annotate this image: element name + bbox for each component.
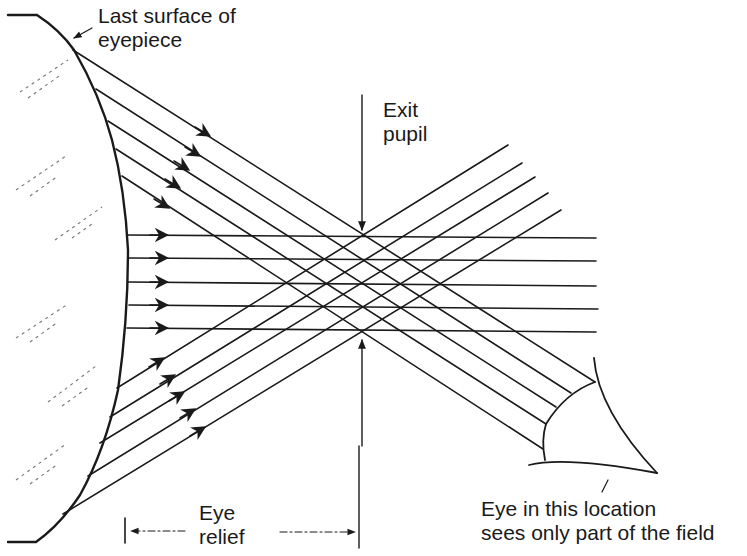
glass-hatching	[16, 60, 102, 484]
horizontal-ray-bundle	[127, 235, 598, 332]
label-last-surface-line1: Last surface of	[98, 4, 236, 28]
downward-ray-bundle	[73, 50, 595, 449]
label-eye-location-line1: Eye in this location	[481, 497, 714, 521]
eye-icon	[529, 358, 657, 473]
label-eye-relief: Eye relief	[199, 501, 245, 549]
label-eye-location: Eye in this location sees only part of t…	[481, 497, 714, 545]
label-exit-pupil-line1: Exit	[383, 98, 427, 122]
label-exit-pupil: Exit pupil	[383, 98, 427, 146]
label-eye-location-line2: sees only part of the field	[481, 521, 714, 545]
label-eye-relief-line2: relief	[199, 525, 245, 549]
label-eye-relief-line1: Eye	[199, 501, 245, 525]
label-exit-pupil-line2: pupil	[383, 122, 427, 146]
label-last-surface-line2: eyepiece	[98, 28, 236, 52]
label-last-surface: Last surface of eyepiece	[98, 4, 236, 52]
eyepiece-diagram	[0, 0, 747, 556]
